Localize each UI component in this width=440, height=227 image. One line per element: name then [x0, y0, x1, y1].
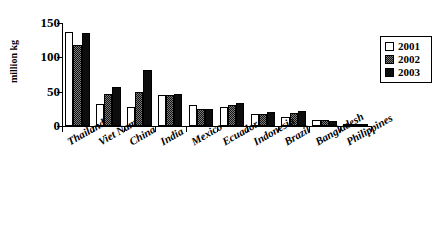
x-axis-category-labels: ThailandViet NamChinaIndiaMexicoEcuadorI…	[0, 0, 440, 227]
legend-swatch-2001-icon	[385, 42, 394, 51]
legend-label: 2003	[398, 67, 420, 78]
x-axis-label-mexico: Mexico	[189, 120, 224, 147]
legend-item: 2003	[385, 66, 428, 79]
legend-label: 2001	[398, 41, 420, 52]
legend-label: 2002	[398, 54, 420, 65]
legend-swatch-2002-icon	[385, 55, 394, 64]
x-axis-label-india: India	[158, 125, 185, 148]
legend-item: 2002	[385, 53, 428, 66]
legend-swatch-2003-icon	[385, 68, 394, 77]
bar-chart: million kg 050100150 ThailandViet NamChi…	[0, 0, 440, 227]
legend: 2001 2002 2003	[380, 36, 432, 83]
legend-item: 2001	[385, 40, 428, 53]
